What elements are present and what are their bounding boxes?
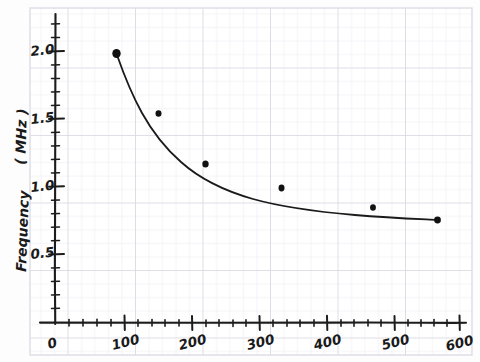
y-axis-title-unit: ( MHz ): [12, 108, 30, 165]
y-axis-title: Frequency ( MHz ): [12, 108, 32, 272]
hand-drawn-chart: 2.0 1.5 1.0 0.5 0 100 200 300 400 500 60…: [0, 0, 480, 362]
data-point: [370, 204, 376, 211]
y-tick-label: 2.0: [30, 41, 55, 59]
y-tick-label: 1.0: [30, 177, 55, 195]
y-tick-label: 0.5: [30, 244, 55, 262]
data-point: [202, 160, 208, 167]
y-tick-label: 1.5: [30, 109, 55, 127]
grid-background: [30, 8, 472, 355]
data-point: [112, 49, 120, 58]
data-point: [434, 217, 441, 224]
graph-paper-sheet: 2.0 1.5 1.0 0.5 0 100 200 300 400 500 60…: [0, 0, 480, 362]
y-axis-title-word: Frequency: [13, 189, 32, 272]
data-point: [279, 185, 285, 192]
y-axis: [55, 14, 56, 324]
data-point: [156, 110, 162, 116]
